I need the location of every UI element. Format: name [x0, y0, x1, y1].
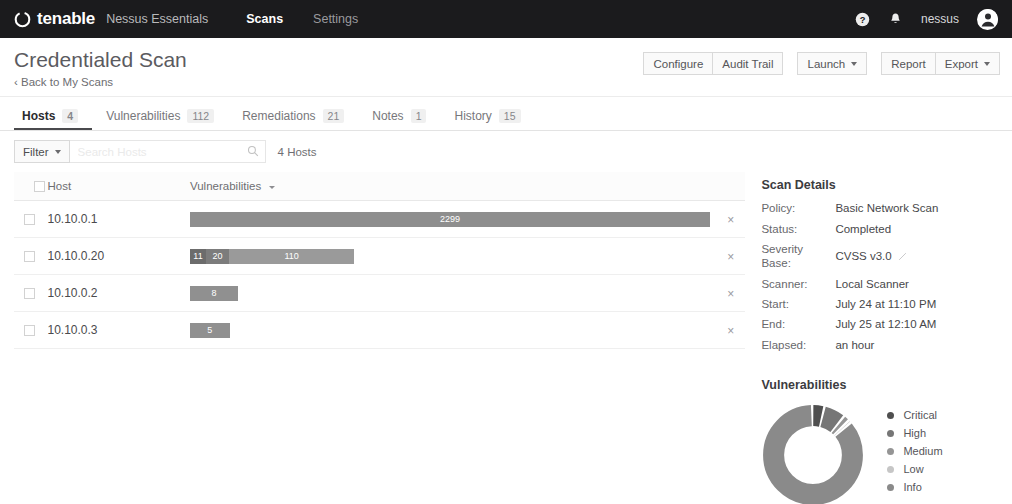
hosts-table-container: Host Vulnerabilities 10.10.0.12299×10.10… [14, 172, 745, 349]
host-cell[interactable]: 10.10.0.2 [47, 275, 190, 312]
host-cell[interactable]: 10.10.0.20 [47, 238, 190, 275]
legend-color-dot [887, 448, 894, 455]
scan-detail-key: Scanner: [761, 277, 835, 291]
audit-trail-button[interactable]: Audit Trail [713, 52, 783, 75]
select-all-header [14, 172, 47, 201]
donut-chart-row: CriticalHighMediumLowInfo [761, 403, 998, 504]
severity-bar-segment[interactable]: 2299 [190, 212, 710, 227]
scan-detail-value: July 25 at 12:10 AM [835, 317, 936, 331]
search-icon[interactable] [247, 145, 259, 157]
export-label: Export [945, 58, 978, 70]
tab-remediations-label: Remediations [242, 109, 315, 123]
scan-detail-value: Completed [835, 222, 891, 236]
vulnerability-bar-cell: 1120110 [190, 238, 716, 275]
select-all-checkbox[interactable] [34, 181, 45, 192]
table-row[interactable]: 10.10.0.35× [14, 312, 745, 349]
edit-pencil-icon[interactable] [898, 252, 907, 261]
launch-button[interactable]: Launch [797, 52, 867, 75]
severity-bar: 8 [190, 286, 710, 301]
row-checkbox[interactable] [24, 325, 35, 336]
row-checkbox[interactable] [24, 288, 35, 299]
scan-detail-value: July 24 at 11:10 PM [835, 297, 936, 311]
remove-host-cell: × [716, 238, 745, 275]
legend-item[interactable]: High [887, 427, 942, 439]
username-label: nessus [921, 12, 959, 26]
scan-detail-value-text: Local Scanner [835, 277, 909, 291]
scan-detail-row: End:July 25 at 12:10 AM [761, 317, 998, 331]
legend-label: High [903, 427, 926, 439]
hosts-table-body: 10.10.0.12299×10.10.0.201120110×10.10.0.… [14, 201, 745, 349]
scan-details-heading: Scan Details [761, 178, 998, 192]
nessus-scan-results-page: tenable Nessus Essentials Scans Settings… [0, 0, 1012, 504]
filter-dropdown-button[interactable]: Filter [14, 140, 70, 163]
remove-host-cell: × [716, 275, 745, 312]
bell-icon[interactable] [888, 12, 903, 27]
row-checkbox[interactable] [24, 251, 35, 262]
remove-host-button[interactable]: × [727, 325, 734, 337]
vulnerability-bar-cell: 5 [190, 312, 716, 349]
legend-item[interactable]: Low [887, 463, 942, 475]
column-header-remove [716, 172, 745, 201]
column-header-vulnerabilities[interactable]: Vulnerabilities [190, 172, 716, 201]
tab-remediations-count: 21 [323, 109, 345, 123]
severity-bar-segment[interactable]: 5 [190, 323, 230, 338]
scan-detail-value-text: Basic Network Scan [835, 201, 938, 215]
tab-hosts-label: Hosts [22, 109, 55, 123]
tab-history[interactable]: History 15 [440, 109, 534, 130]
back-to-my-scans-link[interactable]: ‹ Back to My Scans [14, 76, 998, 88]
scan-detail-row: Scanner:Local Scanner [761, 277, 998, 291]
report-button[interactable]: Report [881, 52, 936, 75]
top-navigation-bar: tenable Nessus Essentials Scans Settings… [0, 0, 1012, 38]
severity-bar-segment[interactable]: 11 [190, 249, 206, 264]
tab-history-count: 15 [499, 109, 521, 123]
legend-item[interactable]: Medium [887, 445, 942, 457]
vulnerability-donut-chart[interactable] [761, 403, 865, 504]
remove-host-button[interactable]: × [727, 214, 734, 226]
scan-detail-value: Local Scanner [835, 277, 909, 291]
legend-item[interactable]: Info [887, 481, 942, 493]
tab-remediations[interactable]: Remediations 21 [228, 109, 358, 130]
column-header-host[interactable]: Host [47, 172, 190, 201]
tab-hosts-count: 4 [62, 109, 78, 123]
primary-nav-links: Scans Settings [246, 12, 358, 26]
host-cell[interactable]: 10.10.0.1 [47, 201, 190, 238]
severity-bar: 5 [190, 323, 710, 338]
brand-logo[interactable]: tenable Nessus Essentials [14, 9, 208, 29]
scan-detail-key: Start: [761, 297, 835, 311]
scan-detail-row: Status:Completed [761, 222, 998, 236]
nav-link-settings[interactable]: Settings [313, 12, 358, 26]
tab-hosts[interactable]: Hosts 4 [14, 109, 92, 130]
export-button[interactable]: Export [936, 52, 1000, 75]
scan-detail-key: Policy: [761, 201, 835, 215]
table-row[interactable]: 10.10.0.28× [14, 275, 745, 312]
legend-item[interactable]: Critical [887, 409, 942, 421]
table-row[interactable]: 10.10.0.12299× [14, 201, 745, 238]
user-avatar-icon[interactable] [977, 9, 998, 30]
severity-bar-segment[interactable]: 20 [206, 249, 229, 264]
column-header-vulnerabilities-label: Vulnerabilities [190, 180, 261, 192]
tab-history-label: History [454, 109, 491, 123]
donut-slice[interactable] [774, 416, 853, 495]
severity-bar-segment[interactable]: 110 [229, 249, 355, 264]
launch-label: Launch [807, 58, 845, 70]
severity-bar-segment[interactable]: 8 [190, 286, 238, 301]
action-group-launch: Launch [797, 52, 867, 75]
donut-chart-legend: CriticalHighMediumLowInfo [887, 403, 942, 499]
remove-host-button[interactable]: × [727, 288, 734, 300]
nav-link-scans[interactable]: Scans [246, 12, 283, 26]
page-header: Credentialed Scan ‹ Back to My Scans Con… [0, 38, 1012, 97]
remove-host-button[interactable]: × [727, 251, 734, 263]
tab-vulnerabilities[interactable]: Vulnerabilities 112 [92, 109, 228, 130]
tab-notes[interactable]: Notes 1 [358, 109, 440, 130]
host-cell[interactable]: 10.10.0.3 [47, 312, 190, 349]
main-content: Host Vulnerabilities 10.10.0.12299×10.10… [0, 172, 1012, 504]
table-row[interactable]: 10.10.0.201120110× [14, 238, 745, 275]
help-circle-icon[interactable]: ? [855, 12, 870, 27]
row-select-cell [14, 275, 47, 312]
configure-button[interactable]: Configure [643, 52, 713, 75]
severity-bar: 1120110 [190, 249, 710, 264]
search-input[interactable] [70, 140, 266, 163]
product-name: Nessus Essentials [106, 12, 208, 26]
row-checkbox[interactable] [24, 214, 35, 225]
legend-label: Critical [903, 409, 937, 421]
